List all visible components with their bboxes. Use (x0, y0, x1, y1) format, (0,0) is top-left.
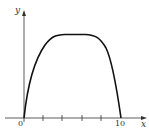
curve-line (24, 35, 121, 119)
y-axis-arrow-icon (22, 10, 26, 16)
x-axis-label: x (141, 120, 146, 129)
origin-label: 0 (18, 120, 23, 128)
y-axis-label: y (15, 6, 20, 15)
x-tick-label-10: 10 (115, 120, 125, 128)
chart-plot (0, 0, 149, 131)
